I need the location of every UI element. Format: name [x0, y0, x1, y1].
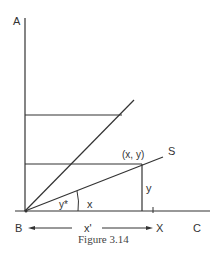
label-s: S — [168, 145, 175, 157]
label-c: C — [193, 222, 201, 234]
label-x-adjacent: x — [87, 198, 93, 210]
arrow-right-head — [146, 226, 153, 230]
label-b: B — [15, 222, 22, 234]
label-y-side: y — [146, 182, 152, 194]
label-x-point: X — [156, 222, 164, 234]
figure-caption: Figure 3.14 — [78, 233, 129, 245]
arrow-left-head — [28, 226, 35, 230]
point-b-marker — [25, 210, 28, 213]
label-angle-ystar: y* — [59, 199, 68, 210]
label-point-xy: (x, y) — [122, 149, 144, 160]
figure-diagram: A B C X S (x, y) y x y* x' Figure 3.14 — [0, 0, 220, 255]
steep-line — [25, 100, 134, 211]
angle-arc — [77, 191, 79, 211]
label-a: A — [13, 15, 21, 27]
